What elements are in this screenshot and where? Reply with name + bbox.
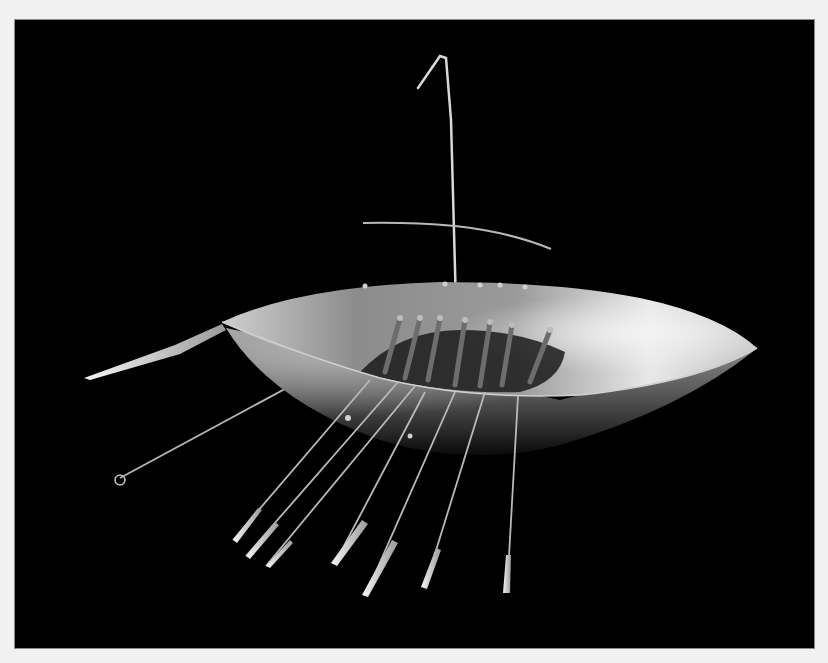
boat-illustration: [15, 20, 814, 648]
photo-frame: Gold model boat with mast, yard, rowing …: [15, 20, 814, 648]
steering-oar: [84, 324, 226, 380]
yard: [363, 223, 551, 249]
